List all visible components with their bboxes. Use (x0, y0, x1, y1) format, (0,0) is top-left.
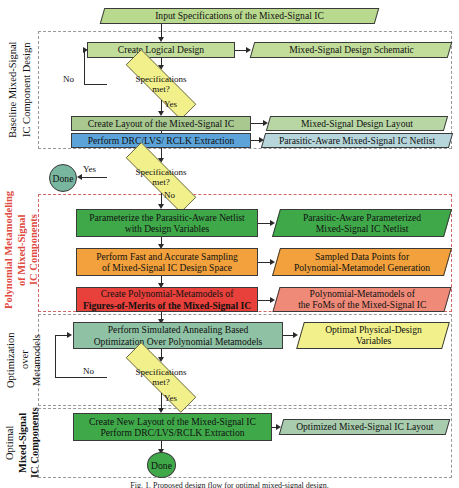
decision3-line2: met? (136, 378, 187, 387)
decision1-text: Specifications met? (106, 69, 216, 100)
edge-decision1-no-v (84, 50, 85, 84)
node-simulated-annealing-line1: Perform Simulated Annealing Based (94, 324, 263, 335)
node-simulated-annealing-line2: Optimization Over Polynomial Metamodels (94, 336, 263, 347)
edge-decision3-no-h (55, 377, 107, 378)
node-optimal-variables-line2: Variables (325, 336, 422, 347)
section-label-optimal-line1: Optimal (4, 408, 15, 478)
node-input-specifications[interactable]: Input Specifications of the Mixed-Signal… (100, 8, 380, 24)
edge-label-yes-2: Yes (83, 164, 96, 174)
node-create-metamodels[interactable]: Create Polynomial-Metamodels of Figures-… (76, 287, 258, 312)
node-metamodels-foms-line1: Polynomial-Metamodels of (298, 288, 426, 299)
node-create-metamodels-line2: Figures-of-Merits of the Mixed-Signal IC (83, 300, 251, 311)
node-optimal-variables[interactable]: Optimal Physical-Design Variables (296, 322, 450, 349)
edge-decision3-no-v (55, 335, 56, 377)
node-design-layout[interactable]: Mixed-Signal Design Layout (266, 116, 448, 131)
node-parameterize-netlist-line2: with Design Variables (89, 223, 244, 234)
section-label-baseline-line2: IC Component Design (21, 33, 32, 147)
node-create-new-layout[interactable]: Create New Layout of the Mixed-Signal IC… (73, 413, 272, 441)
node-create-logical-design-label: Create Logical Design (118, 44, 204, 55)
node-design-schematic[interactable]: Mixed-Signal Design Schematic (250, 42, 453, 58)
edge-label-no-1: No (63, 74, 74, 84)
section-label-metamodeling-line2: of Mixed-Signal (16, 188, 27, 312)
arrowhead-annealing-to-variables (293, 332, 298, 338)
section-label-metamodeling-line1: Polynomial Metamodeling (3, 188, 14, 312)
node-done-top[interactable]: Done (49, 164, 77, 192)
node-sampled-data-points[interactable]: Sampled Data Points for Polynomial-Metam… (272, 248, 452, 276)
node-parameterized-netlist-line1: Parasitic-Aware Parameterized (303, 212, 421, 223)
node-decision-specifications-met-3[interactable]: Specifications met? (106, 362, 216, 393)
node-create-logical-design[interactable]: Create Logical Design (87, 42, 235, 58)
node-parameterized-netlist[interactable]: Parasitic-Aware Parameterized Mixed-Sign… (272, 209, 452, 237)
node-perform-sampling[interactable]: Perform Fast and Accurate Sampling of Mi… (76, 248, 258, 276)
node-done-top-label: Done (53, 173, 74, 184)
decision2-text: Specifications met? (106, 162, 216, 193)
edge-decision2-yes (79, 177, 107, 178)
node-input-specifications-label: Input Specifications of the Mixed-Signal… (155, 10, 324, 21)
node-optimized-layout-label: Optimized Mixed-Signal IC Layout (296, 421, 433, 432)
node-sampled-data-points-line1: Sampled Data Points for (294, 251, 430, 262)
section-label-optimal-line3: IC Components (29, 405, 40, 481)
node-perform-drc-lvs[interactable]: Perform DRC/LVS/ RCLK Extraction (71, 133, 251, 148)
node-optimal-variables-line1: Optimal Physical-Design (325, 324, 422, 335)
node-create-new-layout-line1: Create New Layout of the Mixed-Signal IC (89, 416, 256, 427)
node-sampled-data-points-line2: Polynomial-Metamodel Generation (294, 262, 430, 273)
node-simulated-annealing[interactable]: Perform Simulated Annealing Based Optimi… (73, 322, 283, 349)
section-label-optimal-line2: Mixed-Signal (17, 405, 28, 481)
node-done-bottom[interactable]: Done (147, 452, 176, 478)
arrowhead-decision3-no (67, 332, 72, 338)
section-label-baseline-line1: Baseline Mixed-Signal (7, 33, 18, 147)
node-parameterize-netlist[interactable]: Parameterize the Parasitic-Aware Netlist… (76, 209, 258, 237)
node-parasitic-netlist[interactable]: Parasitic-Aware Mixed-Signal IC Netlist (261, 133, 453, 148)
node-decision-specifications-met-2[interactable]: Specifications met? (106, 162, 216, 193)
node-parameterize-netlist-line1: Parameterize the Parasitic-Aware Netlist (89, 212, 244, 223)
node-decision-specifications-met-1[interactable]: Specifications met? (106, 69, 216, 100)
edge-decision1-no-h (84, 84, 107, 85)
edge-label-no-2: No (164, 190, 175, 200)
node-design-layout-label: Mixed-Signal Design Layout (301, 118, 413, 129)
node-parameterized-netlist-line2: Mixed-Signal IC Netlist (303, 223, 421, 234)
arrowhead-decision1-no (83, 47, 88, 53)
section-label-optimization-line1: Optimization (5, 314, 16, 406)
decision2-line2: met? (136, 178, 187, 187)
node-design-schematic-label: Mixed-Signal Design Schematic (289, 44, 414, 55)
figure-flowchart: Baseline Mixed-Signal IC Component Desig… (0, 0, 459, 488)
section-label-metamodeling-line3: IC Components (28, 188, 39, 312)
node-perform-drc-lvs-label: Perform DRC/LVS/ RCLK Extraction (88, 135, 234, 146)
decision1-line2: met? (136, 85, 187, 94)
edge-label-yes-3: Yes (164, 393, 177, 403)
node-perform-sampling-line2: of Mixed-Signal IC Design Space (96, 262, 238, 273)
section-label-optimization-line3: Metamodels (31, 314, 42, 406)
node-create-metamodels-line1: Create Polynomial-Metamodels of (83, 288, 251, 299)
section-label-optimization-line2: over (19, 314, 30, 406)
node-perform-sampling-line1: Perform Fast and Accurate Sampling (96, 251, 238, 262)
node-create-layout-label: Create Layout of the Mixed-Signal IC (88, 118, 234, 129)
figure-caption: Fig. 1. Proposed design flow for optimal… (0, 481, 459, 488)
decision3-text: Specifications met? (106, 362, 216, 393)
node-create-layout[interactable]: Create Layout of the Mixed-Signal IC (71, 116, 251, 131)
arrowhead-decision2-yes (77, 174, 82, 180)
edge-label-no-3: No (83, 366, 94, 376)
node-optimized-layout[interactable]: Optimized Mixed-Signal IC Layout (279, 419, 451, 435)
node-metamodels-foms-line2: the FoMs of the Mixed-Signal IC (298, 300, 426, 311)
node-create-new-layout-line2: Perform DRC/LVS/RCLK Extraction (89, 427, 256, 438)
edge-label-yes-1: Yes (164, 99, 177, 109)
node-metamodels-foms[interactable]: Polynomial-Metamodels of the FoMs of the… (272, 287, 451, 312)
node-done-bottom-label: Done (151, 460, 172, 471)
node-parasitic-netlist-label: Parasitic-Aware Mixed-Signal IC Netlist (279, 135, 435, 146)
